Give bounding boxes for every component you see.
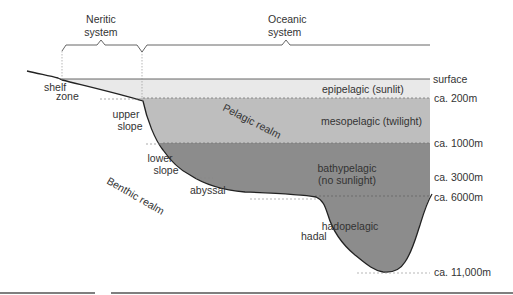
depth-1000: ca. 1000m — [434, 137, 483, 149]
hadopelagic-label: hadopelagic — [322, 220, 379, 232]
depth-200: ca. 200m — [434, 92, 477, 104]
bathypelagic-label-1: bathypelagic — [318, 162, 377, 174]
ocean-zones-diagram: Neritic system Oceanic system epipelagic… — [0, 0, 513, 295]
abyssal-label: abyssal — [190, 184, 226, 196]
system-brackets — [62, 40, 430, 52]
depth-3000: ca. 3000m — [434, 171, 483, 183]
depth-surface: surface — [433, 73, 468, 85]
upper-slope-label-1: upper — [113, 108, 140, 120]
depth-6000: ca. 6000m — [434, 191, 483, 203]
depth-11000: ca. 11,000m — [434, 266, 491, 278]
neritic-label-1: Neritic — [86, 13, 116, 25]
lower-slope-label-2: slope — [153, 164, 178, 176]
upper-slope-label-2: slope — [117, 120, 142, 132]
mesopelagic-label: mesopelagic (twilight) — [321, 115, 422, 127]
oceanic-label-2: system — [268, 26, 302, 38]
lower-slope-label-1: lower — [147, 152, 173, 164]
oceanic-label-1: Oceanic — [268, 13, 307, 25]
epipelagic-label: epipelagic (sunlit) — [322, 83, 404, 95]
benthic-realm-label: Benthic realm — [105, 174, 167, 217]
bathypelagic-label-2: (no sunlight) — [318, 174, 376, 186]
hadal-label: hadal — [301, 230, 327, 242]
shelf-zone-label-2: zone — [56, 90, 79, 102]
neritic-label-2: system — [84, 26, 118, 38]
